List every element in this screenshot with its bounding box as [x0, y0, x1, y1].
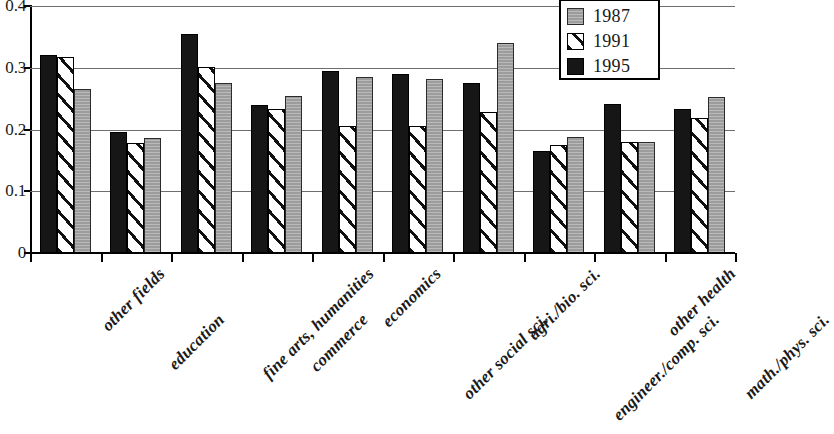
- bar-1987: [74, 89, 91, 253]
- bar-1987: [497, 43, 514, 253]
- bar-1987: [356, 77, 373, 253]
- bar-1991: [127, 143, 144, 253]
- bar-1995: [533, 151, 550, 253]
- y-tick-label: 0.1: [5, 181, 26, 201]
- bar-1995: [181, 34, 198, 253]
- bar-1995: [40, 55, 57, 253]
- bar-1995: [604, 104, 621, 253]
- bar-1995: [392, 74, 409, 253]
- x-tick-label: education: [165, 310, 229, 374]
- bar-group: [101, 6, 172, 253]
- bar-group: [312, 6, 383, 253]
- legend[interactable]: 1987 1991 1995: [559, 0, 660, 80]
- legend-label-1995: 1995: [593, 56, 630, 77]
- bar-1987: [708, 97, 725, 253]
- bar-1995: [322, 71, 339, 253]
- bar-1987: [638, 142, 655, 253]
- bar-1987: [144, 138, 161, 253]
- bar-1995: [251, 105, 268, 253]
- bar-1991: [480, 112, 497, 253]
- bar-1995: [110, 132, 127, 253]
- bar-group: [171, 6, 242, 253]
- legend-item-1995: 1995: [567, 54, 658, 79]
- legend-swatch-1991: [567, 33, 584, 50]
- legend-item-1987: 1987: [567, 4, 658, 29]
- y-tick-label: 0.4: [5, 0, 26, 16]
- bar-group: [30, 6, 101, 253]
- legend-swatch-1995: [567, 58, 584, 75]
- bar-1991: [550, 145, 567, 253]
- bar-1987: [567, 137, 584, 253]
- bar-group: [665, 6, 736, 253]
- y-axis: 00.10.20.30.4: [0, 0, 30, 260]
- bar-1991: [198, 67, 215, 253]
- bar-1995: [463, 83, 480, 253]
- legend-label-1987: 1987: [593, 6, 630, 27]
- bar-1995: [674, 109, 691, 253]
- y-tick-label: 0.3: [5, 58, 26, 78]
- bar-1991: [691, 118, 708, 253]
- bar-1991: [339, 126, 356, 253]
- x-tick-mark: [735, 253, 737, 262]
- bar-1991: [621, 142, 638, 253]
- bar-1987: [285, 96, 302, 253]
- y-tick-label: 0.2: [5, 120, 26, 140]
- x-axis-labels: other fieldseducationfine arts, humaniti…: [30, 258, 735, 434]
- legend-item-1991: 1991: [567, 29, 658, 54]
- x-tick-label: agri./bio. sci.: [524, 264, 604, 344]
- bar-1987: [426, 79, 443, 253]
- legend-swatch-1987: [567, 8, 584, 25]
- bar-group: [383, 6, 454, 253]
- bar-1991: [268, 109, 285, 253]
- x-tick-label: economics: [378, 264, 445, 331]
- x-tick-label: math./phys. sci.: [741, 310, 834, 403]
- x-tick-label: other fields: [98, 264, 170, 336]
- legend-label-1991: 1991: [593, 31, 630, 52]
- bar-1991: [57, 57, 74, 253]
- bar-group: [453, 6, 524, 253]
- bar-1987: [215, 83, 232, 253]
- bar-1991: [409, 126, 426, 253]
- bar-group: [242, 6, 313, 253]
